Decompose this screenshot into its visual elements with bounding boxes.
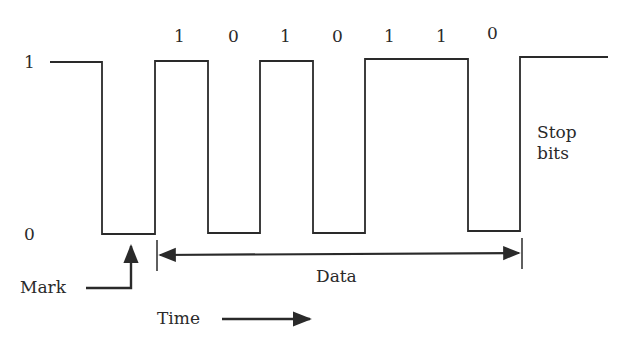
bit-label: 1	[436, 28, 447, 45]
waveform-diagram	[0, 0, 626, 344]
stop-bits-label-line1: Stop	[537, 124, 577, 141]
bit-label: 0	[228, 28, 239, 45]
high-level-label: 1	[24, 54, 35, 71]
bit-label: 0	[332, 28, 343, 45]
stop-bits-label-line2: bits	[537, 145, 569, 162]
bit-label: 1	[280, 28, 291, 45]
mark-arrow	[86, 246, 131, 288]
bit-label: 1	[384, 28, 395, 45]
mark-label: Mark	[20, 279, 66, 296]
low-level-label: 0	[24, 226, 35, 243]
signal-waveform	[50, 57, 608, 234]
time-label: Time	[157, 310, 200, 327]
bit-label: 0	[487, 25, 498, 42]
bit-label: 1	[174, 28, 185, 45]
data-label: Data	[316, 268, 357, 285]
data-span-arrow	[160, 253, 519, 255]
